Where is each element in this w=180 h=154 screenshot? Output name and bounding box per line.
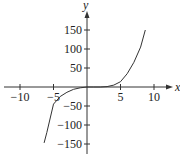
- y-axis-label: y: [82, 0, 89, 12]
- x-tick-label: −10: [11, 90, 30, 104]
- y-tick-label: 100: [64, 42, 82, 56]
- y-tick-label: 50: [70, 61, 82, 75]
- y-tick-label: −50: [63, 99, 82, 113]
- x-tick-label: −5: [47, 90, 60, 104]
- x-axis-label: x: [174, 80, 180, 94]
- y-tick-label: −100: [57, 118, 82, 132]
- y-tick-label: 150: [64, 23, 82, 37]
- y-tick-label: −150: [57, 137, 82, 151]
- chart: −10−551015010050−50−100−150 x y: [0, 0, 180, 154]
- y-axis-arrow-icon: [85, 11, 90, 18]
- y-axis: [85, 11, 90, 154]
- x-axis-arrow-icon: [166, 85, 173, 90]
- x-tick-label: 5: [118, 90, 124, 104]
- x-tick-label: 10: [148, 90, 160, 104]
